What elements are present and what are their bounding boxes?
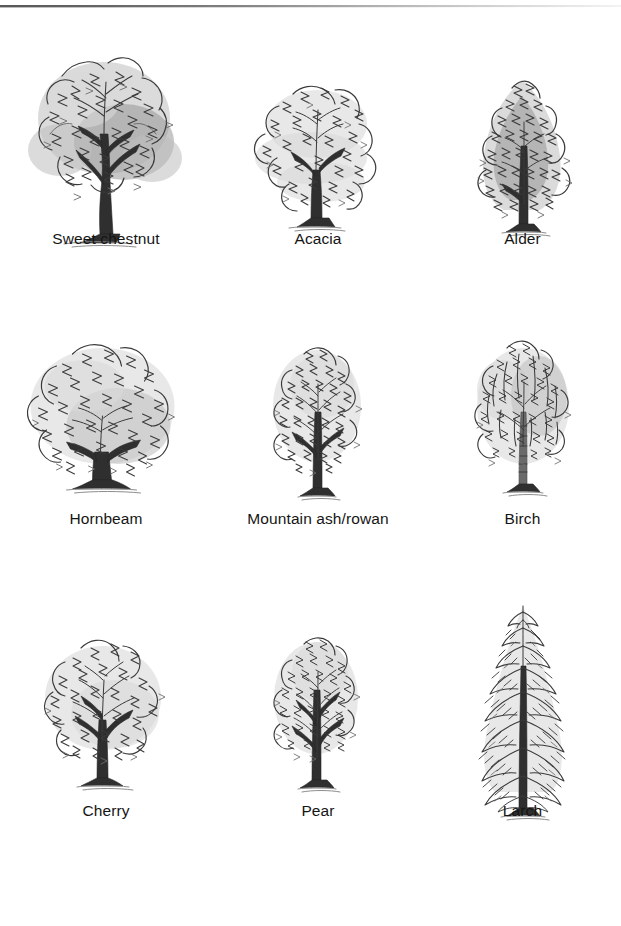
tree-label: Mountain ash/rowan (212, 510, 424, 528)
tree-cell-birch: Birch (424, 318, 621, 608)
page-top-rule (0, 5, 621, 7)
tree-cell-pear: Pear (212, 610, 424, 900)
tree-label: Hornbeam (0, 510, 212, 528)
broadleaf-weeping-tree-icon (467, 334, 581, 512)
tree-row: Cherry (0, 610, 621, 900)
conifer-tree-icon (465, 596, 583, 834)
tree-label: Cherry (0, 802, 212, 820)
broadleaf-round-open-tree-icon (35, 630, 175, 800)
tree-cell-mountain-ash-rowan: Mountain ash/rowan (212, 318, 424, 608)
tree-identification-plate: Sweet chestnut (0, 18, 621, 918)
tree-cell-sweet-chestnut: Sweet chestnut (0, 38, 212, 328)
tree-label: Pear (212, 802, 424, 820)
broadleaf-layered-tree-icon (249, 72, 387, 254)
tree-label: Larch (424, 802, 621, 820)
tree-label: Birch (424, 510, 621, 528)
broadleaf-oval-tree-icon (260, 340, 376, 510)
tree-cell-larch: Larch (424, 610, 621, 900)
tree-label: Acacia (212, 230, 424, 248)
broadleaf-domed-tree-icon (23, 334, 188, 506)
broadleaf-upright-tree-icon (262, 632, 374, 800)
tree-row: Sweet chestnut (0, 38, 621, 328)
tree-label: Alder (424, 230, 621, 248)
tree-cell-acacia: Acacia (212, 38, 424, 328)
tree-row: Hornbeam (0, 318, 621, 608)
broadleaf-conical-tree-icon (464, 74, 584, 254)
tree-cell-alder: Alder (424, 38, 621, 328)
tree-label: Sweet chestnut (0, 230, 212, 248)
broadleaf-spreading-tree-icon (20, 38, 190, 260)
tree-cell-hornbeam: Hornbeam (0, 318, 212, 608)
tree-cell-cherry: Cherry (0, 610, 212, 900)
